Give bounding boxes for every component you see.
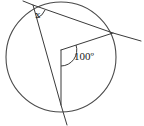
inscribed-angle-label: x	[35, 9, 41, 20]
radius-to-right-point	[61, 33, 113, 50]
geometry-diagram: x 100º	[0, 0, 144, 126]
geometry-canvas	[0, 0, 144, 126]
central-angle-label: 100º	[74, 51, 94, 62]
secant-line-upper	[23, 1, 141, 41]
